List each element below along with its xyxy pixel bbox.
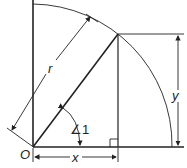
quadrant-diagram: y x r ∠1 O	[0, 0, 187, 168]
y-label: y	[171, 88, 180, 103]
r-dimension	[56, 17, 90, 60]
r-ext-bottom	[7, 128, 32, 146]
r-dimension	[12, 74, 46, 130]
circle-arc	[33, 4, 172, 147]
right-angle-marker	[110, 139, 118, 147]
r-label: r	[48, 61, 53, 76]
r-ext-top	[86, 14, 98, 22]
origin-label: O	[20, 147, 30, 162]
angle-label: ∠1	[70, 122, 89, 137]
x-label: x	[71, 150, 79, 165]
